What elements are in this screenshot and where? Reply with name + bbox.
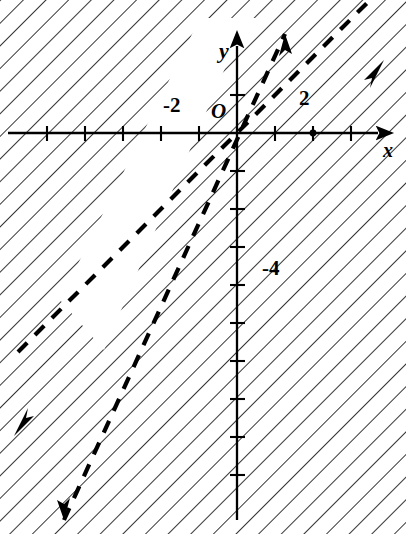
origin-label: O xyxy=(211,101,226,122)
y-tick-label-negative-4: -4 xyxy=(262,258,280,279)
y-axis-label: y xyxy=(219,40,229,62)
x-intercept-marker xyxy=(310,130,317,137)
x-tick-label-positive-2: 2 xyxy=(299,88,310,109)
graph-canvas xyxy=(0,0,406,534)
inequality-graph-figure: y x O -2 2 -4 xyxy=(0,0,406,534)
x-tick-label-negative-2: -2 xyxy=(163,95,181,116)
hatched-solution-region xyxy=(0,0,406,534)
x-axis-label: x xyxy=(383,140,393,160)
